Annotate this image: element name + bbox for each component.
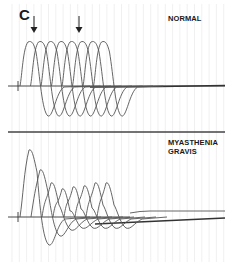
- myasthenia-waveforms: [20, 150, 167, 245]
- normal-panel: [8, 16, 225, 116]
- emg-figure: [0, 0, 230, 268]
- myasthenia-label: MYASTHENIA GRAVIS: [168, 138, 228, 156]
- arrow-icon: [76, 16, 83, 33]
- myasthenia-panel: [8, 150, 225, 245]
- mg-baseline-upper: [130, 211, 225, 213]
- myasthenia-label-line2: GRAVIS: [168, 147, 228, 156]
- panel-letter: C: [19, 6, 30, 23]
- myasthenia-label-line1: MYASTHENIA: [168, 138, 228, 147]
- normal-label: NORMAL: [168, 14, 202, 23]
- normal-waveforms: [20, 41, 164, 116]
- arrow-icon: [31, 16, 38, 33]
